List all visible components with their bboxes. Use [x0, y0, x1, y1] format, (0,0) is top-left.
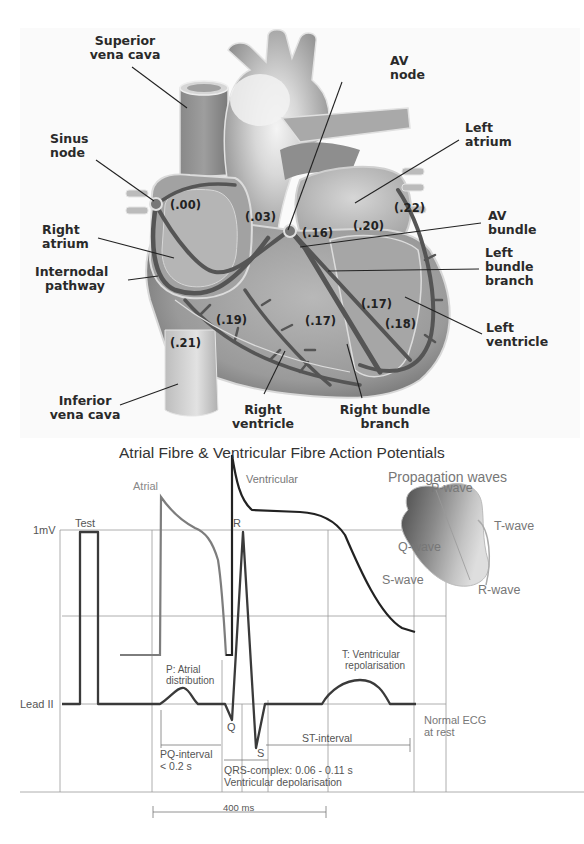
time-internodal: (.03): [245, 210, 276, 224]
axis-label-lead-ii: Lead II: [20, 699, 54, 710]
label-right-bundle-branch: Right bundle branch: [330, 403, 440, 431]
propagation-heart: [401, 483, 489, 586]
label-line: bundle: [485, 260, 534, 274]
label-line: branch: [485, 274, 534, 288]
annotation-line: Normal ECG: [424, 714, 486, 726]
wave-label-t: T-wave: [494, 519, 534, 533]
time-septum-right: (.17): [305, 314, 336, 328]
wave-label-r: R-wave: [478, 583, 520, 597]
label-line: AV: [390, 54, 425, 68]
annotation-line: T: Ventricular: [342, 649, 405, 660]
label-line: Right: [42, 223, 89, 237]
time-av-bundle: (.20): [353, 219, 384, 233]
time-inferior: (.21): [170, 336, 201, 350]
label-line: Right bundle: [330, 403, 440, 417]
label-line: Internodal: [35, 265, 108, 279]
annotation-line: P: Atrial: [166, 664, 214, 675]
label-line: Right: [228, 403, 298, 417]
lead-ii-trace: [62, 532, 416, 748]
label-line: atrium: [42, 237, 89, 251]
label-line: bundle: [488, 223, 536, 237]
annotation-line: repolarisation: [342, 660, 405, 671]
label-left-atrium: Left atrium: [465, 121, 512, 149]
annotation-line: < 0.2 s: [160, 760, 213, 772]
label-line: Left: [465, 121, 512, 135]
trace-label-atrial: Atrial: [133, 481, 158, 492]
label-line: Sinus: [50, 132, 89, 146]
av-node-marker: [284, 225, 296, 237]
label-line: Inferior: [40, 394, 130, 408]
annotation-line: PQ-interval: [160, 748, 213, 760]
label-line: node: [50, 146, 89, 160]
label-line: node: [390, 68, 425, 82]
label-line: atrium: [465, 135, 512, 149]
wave-label-p: P-wave: [431, 481, 473, 495]
label-line: branch: [330, 417, 440, 431]
time-sinus-node: (.00): [170, 198, 201, 212]
label-inferior-vena-cava: Inferior vena cava: [40, 394, 130, 422]
label-sinus-node: Sinus node: [50, 132, 89, 160]
label-left-bundle-branch: Left bundle branch: [485, 246, 534, 288]
label-left-ventricle: Left ventricle: [486, 321, 548, 349]
label-line: vena cava: [40, 408, 130, 422]
trace-label-s: S: [257, 748, 264, 759]
annotation-line: Ventricular depolarisation: [224, 776, 353, 788]
annotation-pq-interval: PQ-interval < 0.2 s: [160, 748, 213, 772]
time-av-node: (.16): [302, 226, 333, 240]
label-av-node: AV node: [390, 54, 425, 82]
annotation-qrs-complex: QRS-complex: 0.06 - 0.11 s Ventricular d…: [224, 764, 353, 788]
label-line: AV: [488, 209, 536, 223]
atrial-trace: [120, 497, 230, 655]
trace-label-q: Q: [227, 722, 236, 733]
chart-grid: [20, 530, 584, 792]
time-septum-left: (.17): [361, 297, 392, 311]
annotation-line: at rest: [424, 726, 486, 738]
label-superior-vena-cava: Superior vena cava: [70, 34, 180, 62]
label-line: Left: [486, 321, 548, 335]
wave-label-q: Q-wave: [398, 540, 441, 554]
wave-label-s: S-wave: [382, 573, 424, 587]
label-right-ventricle: Right ventricle: [228, 403, 298, 431]
annotation-scale-400ms: 400 ms: [223, 802, 254, 813]
label-internodal-pathway: Internodal pathway: [35, 265, 108, 293]
trace-label-test: Test: [75, 518, 95, 529]
chart-title: Atrial Fibre & Ventricular Fibre Action …: [119, 444, 445, 462]
label-line: Superior: [70, 34, 180, 48]
trace-label-r: R: [233, 518, 241, 529]
label-av-bundle: AV bundle: [488, 209, 536, 237]
trace-label-ventricular: Ventricular: [246, 474, 298, 485]
annotation-t-wave: T: Ventricular repolarisation: [342, 649, 405, 671]
time-left-ventricle: (.18): [385, 317, 416, 331]
annotation-st-interval: ST-interval: [302, 733, 352, 744]
label-line: ventricle: [486, 335, 548, 349]
label-line: vena cava: [70, 48, 180, 62]
time-right-ventricle: (.19): [216, 313, 247, 327]
label-line: pathway: [35, 279, 108, 293]
annotation-p-wave: P: Atrial distribution: [166, 664, 214, 686]
label-line: ventricle: [228, 417, 298, 431]
annotation-line: distribution: [166, 675, 214, 686]
label-line: Left: [485, 246, 534, 260]
label-right-atrium: Right atrium: [42, 223, 89, 251]
axis-label-1mv: 1mV: [33, 525, 56, 536]
annotation-line: QRS-complex: 0.06 - 0.11 s: [224, 764, 353, 776]
time-left-atrium-wall: (.22): [394, 201, 425, 215]
annotation-normal-ecg: Normal ECG at rest: [424, 714, 486, 738]
ventricular-trace: [226, 455, 415, 655]
